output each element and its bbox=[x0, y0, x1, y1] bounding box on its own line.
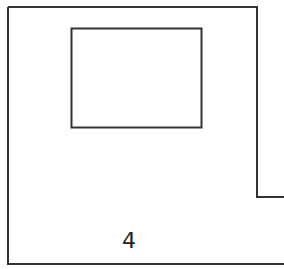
room-label: 4 bbox=[122, 230, 136, 252]
floor-plan-canvas bbox=[0, 0, 284, 269]
room-outline bbox=[8, 7, 284, 197]
room-outline-bottom bbox=[8, 7, 284, 264]
inner-rectangle bbox=[72, 29, 202, 128]
